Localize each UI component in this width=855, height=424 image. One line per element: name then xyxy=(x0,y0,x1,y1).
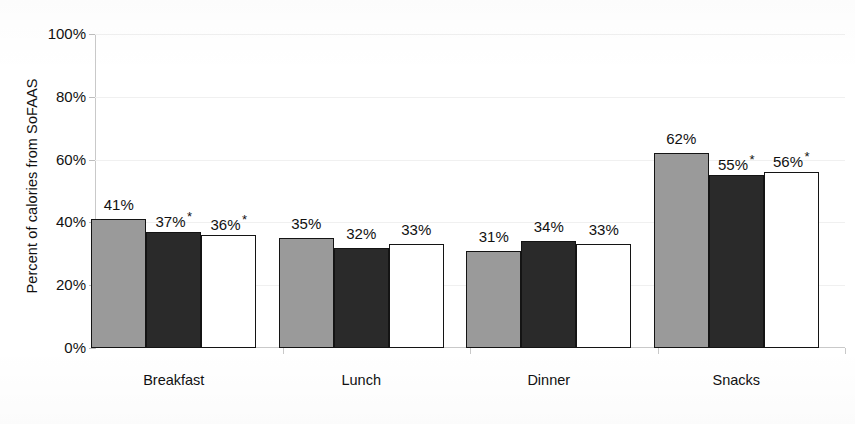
bar xyxy=(146,232,201,348)
x-tick-mark xyxy=(658,348,659,354)
x-tick-mark xyxy=(470,348,471,354)
bar-value-label: 31% xyxy=(462,229,525,244)
significance-asterisk: * xyxy=(242,212,247,227)
y-tick-label: 0% xyxy=(24,340,86,355)
bar xyxy=(466,251,521,348)
bar-value-label: 36%* xyxy=(197,213,260,232)
y-tick-label: 40% xyxy=(24,214,86,229)
x-tick-mark xyxy=(845,348,846,354)
y-tick-label: 100% xyxy=(24,26,86,41)
bar-value-label: 56%* xyxy=(760,150,823,169)
y-axis-tick-labels: 100%80%60%40%20%0% xyxy=(22,0,86,424)
bar-value-label: 35% xyxy=(275,216,338,231)
gridline xyxy=(95,34,845,35)
bar xyxy=(279,238,334,348)
bar xyxy=(521,241,576,348)
bar-value-label: 41% xyxy=(87,197,150,212)
gridline xyxy=(95,97,845,98)
bar-value-label: 34% xyxy=(517,219,580,234)
bar-chart: Percent of calories from SoFAAS 100%80%6… xyxy=(0,0,855,424)
y-tick-label: 60% xyxy=(24,152,86,167)
bar xyxy=(201,235,256,348)
y-tick-label: 80% xyxy=(24,89,86,104)
plot-area xyxy=(95,34,845,348)
bar-value-label: 33% xyxy=(385,222,448,237)
bar xyxy=(334,248,389,348)
bar-value-label: 62% xyxy=(650,131,713,146)
x-category-label: Snacks xyxy=(624,372,849,388)
bar xyxy=(91,219,146,348)
significance-asterisk: * xyxy=(749,152,754,167)
significance-asterisk: * xyxy=(187,209,192,224)
bar-value-label: 37%* xyxy=(142,210,205,229)
significance-asterisk: * xyxy=(804,149,809,164)
bar xyxy=(654,153,709,348)
bar xyxy=(389,244,444,348)
bar xyxy=(576,244,631,348)
bar-value-label: 32% xyxy=(330,226,393,241)
bar-value-label: 33% xyxy=(572,222,635,237)
bar-value-label: 55%* xyxy=(705,153,768,172)
y-tick-mark xyxy=(89,348,95,349)
y-tick-label: 20% xyxy=(24,277,86,292)
bar xyxy=(764,172,819,348)
bar xyxy=(709,175,764,348)
x-tick-mark xyxy=(283,348,284,354)
